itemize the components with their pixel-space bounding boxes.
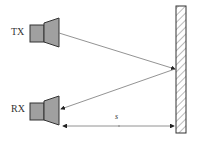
incident-ray-arrow: [59, 33, 175, 69]
reflected-ray-arrow: [61, 69, 175, 109]
distance-label: s: [115, 112, 118, 121]
tx-label: TX: [11, 26, 24, 37]
rx-label: RX: [11, 103, 25, 114]
tx-horn-icon: [30, 18, 59, 47]
reflector-wall: [176, 6, 186, 133]
rx-horn-icon: [30, 96, 59, 125]
diagram-canvas: [0, 0, 199, 144]
